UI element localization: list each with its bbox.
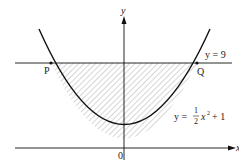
curve-variable: x xyxy=(200,111,206,122)
y-axis-label: y xyxy=(120,5,126,16)
point-p-label: P xyxy=(44,65,50,76)
point-q-label: Q xyxy=(197,66,205,77)
y-axis-arrow-icon xyxy=(122,16,127,24)
line-label: y = 9 xyxy=(205,49,226,60)
curve-label-prefix: y = xyxy=(174,111,188,122)
diagram-canvas: y x 0 P Q y = 9 y = 1 2 x 2 + 1 xyxy=(0,0,239,165)
curve-equation-label: y = 1 2 x 2 + 1 xyxy=(174,106,225,126)
point-q-marker xyxy=(195,61,198,64)
curve-label-tail: + 1 xyxy=(212,111,225,122)
origin-label: 0 xyxy=(118,150,123,161)
x-axis-label: x xyxy=(235,142,239,153)
curve-exponent: 2 xyxy=(207,110,210,116)
curve-frac-numerator: 1 xyxy=(194,106,198,115)
curve-frac-denominator: 2 xyxy=(194,117,198,126)
x-axis-arrow-icon xyxy=(228,146,236,151)
point-p-marker xyxy=(49,61,52,64)
